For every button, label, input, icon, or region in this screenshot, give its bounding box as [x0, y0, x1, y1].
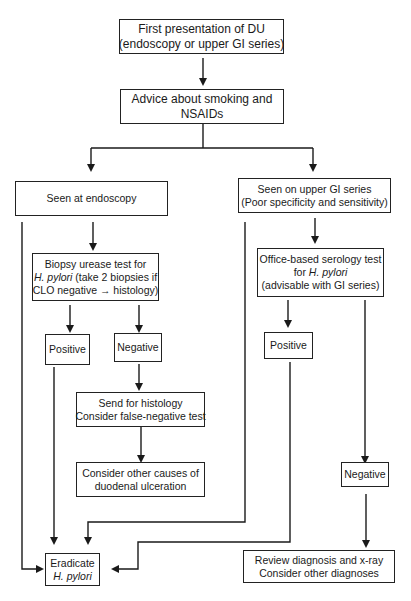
- node-sero-positive: Positive: [264, 332, 313, 359]
- node-text: (endoscopy or upper GI series): [119, 37, 284, 52]
- node-seen-upper-gi: Seen on upper GI series (Poor specificit…: [238, 178, 391, 213]
- node-text: NSAIDs: [181, 107, 224, 122]
- node-review: Review diagnosis and x-ray Consider othe…: [243, 550, 395, 583]
- node-text: Positive: [270, 339, 307, 352]
- node-text: Consider other diagnoses: [259, 567, 379, 580]
- node-endo-positive: Positive: [45, 334, 90, 365]
- node-text: (advisable with GI series): [262, 279, 380, 292]
- node-text: Consider false-negative test: [75, 410, 205, 423]
- node-text-italic: H. pylori: [53, 570, 92, 582]
- node-text: First presentation of DU: [138, 22, 265, 37]
- node-text: Biopsy urease test for: [45, 258, 147, 271]
- node-text-italic: H. pylori: [34, 271, 73, 283]
- node-text: Negative: [117, 341, 158, 354]
- node-text-italic: H. pylori: [309, 266, 348, 278]
- node-eradicate: Eradicate H. pylori: [45, 553, 100, 586]
- node-seen-endoscopy: Seen at endoscopy: [15, 181, 168, 216]
- node-text: CLO negative → histology): [33, 284, 158, 297]
- node-endo-negative: Negative: [114, 333, 162, 362]
- node-text: Seen on upper GI series: [258, 183, 372, 196]
- node-text: Seen at endoscopy: [47, 192, 137, 205]
- node-text: Office-based serology test: [260, 253, 382, 266]
- node-text: (take 2 biopsies if: [72, 271, 157, 283]
- node-text: Consider other causes of: [82, 467, 199, 480]
- node-text: Positive: [49, 343, 86, 356]
- node-text: (Poor specificity and sensitivity): [241, 196, 387, 209]
- node-other-causes: Consider other causes of duodenal ulcera…: [76, 462, 205, 497]
- node-first-presentation: First presentation of DU (endoscopy or u…: [119, 19, 284, 54]
- node-biopsy-urease: Biopsy urease test for H. pylori (take 2…: [32, 253, 159, 301]
- node-send-histology: Send for histology Consider false-negati…: [76, 392, 205, 427]
- node-advice: Advice about smoking and NSAIDs: [120, 89, 284, 124]
- node-text: Review diagnosis and x-ray: [255, 554, 383, 567]
- node-text: for: [294, 266, 309, 278]
- node-text: duodenal ulceration: [95, 480, 187, 493]
- node-text: Send for histology: [98, 397, 182, 410]
- node-sero-negative: Negative: [341, 462, 389, 487]
- node-serology: Office-based serology test for H. pylori…: [257, 248, 384, 297]
- node-text: Negative: [344, 468, 385, 481]
- node-text: Advice about smoking and: [132, 92, 273, 107]
- node-text: Eradicate: [50, 557, 94, 570]
